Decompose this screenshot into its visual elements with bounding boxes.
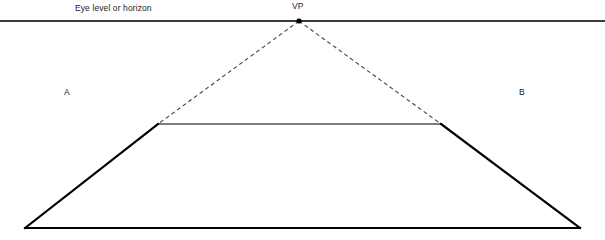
vanishing-guide-right	[299, 21, 441, 124]
vanishing-point-label: VP	[292, 2, 304, 11]
horizon-label: Eye level or horizon	[75, 4, 152, 13]
perspective-diagram: Eye level or horizon VP A B	[0, 0, 605, 240]
left-plane-label: A	[64, 88, 70, 97]
vanishing-point-marker	[296, 18, 301, 23]
plane-left-edge	[25, 124, 158, 228]
plane-right-edge	[441, 124, 580, 228]
right-plane-label: B	[519, 88, 525, 97]
diagram-canvas	[0, 0, 605, 240]
vanishing-guide-left	[158, 21, 299, 124]
